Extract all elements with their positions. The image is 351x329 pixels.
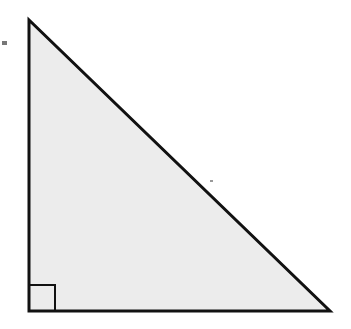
right-triangle <box>29 20 330 311</box>
speck-2 <box>210 180 213 182</box>
diagram-canvas <box>0 0 351 329</box>
speck-1 <box>2 41 7 45</box>
